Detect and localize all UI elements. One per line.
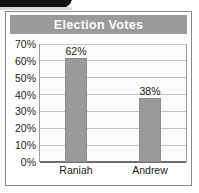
gridline <box>40 145 186 146</box>
y-axis-tick-label: 10% <box>4 139 36 151</box>
chart-title: Election Votes <box>54 18 143 32</box>
y-axis-tick-label: 70% <box>4 38 36 50</box>
plot-wrap: 62%38% <box>39 44 187 162</box>
gridline <box>40 111 186 112</box>
x-axis-labels: RaniahAndrew <box>39 164 187 180</box>
y-axis-labels: 0%10%20%30%40%50%60%70% <box>3 44 36 162</box>
bar-raniah <box>65 58 87 163</box>
gridline <box>40 77 186 78</box>
y-axis-tick-label: 60% <box>4 55 36 67</box>
gridline <box>40 60 186 61</box>
x-axis-line <box>40 161 186 163</box>
gridline <box>40 128 186 129</box>
gridline <box>40 44 186 45</box>
y-axis-tick-label: 20% <box>4 122 36 134</box>
page-edge-artifact-shadow <box>0 7 72 10</box>
plot-area <box>39 44 187 162</box>
chart-screenshot: Election Votes 0%10%20%30%40%50%60%70% 6… <box>0 0 199 193</box>
y-axis-tick-label: 40% <box>4 89 36 101</box>
chart-title-bar: Election Votes <box>10 15 187 34</box>
y-axis-tick-label: 50% <box>4 72 36 84</box>
gridline <box>40 94 186 95</box>
bar-andrew <box>139 98 161 162</box>
bar-value-label: 62% <box>65 45 86 57</box>
bar-value-label: 38% <box>139 85 160 97</box>
x-axis-category-label: Raniah <box>59 164 92 176</box>
x-axis-category-label: Andrew <box>132 164 168 176</box>
y-axis-tick-label: 30% <box>4 105 36 117</box>
y-axis-tick-label: 0% <box>4 156 36 168</box>
